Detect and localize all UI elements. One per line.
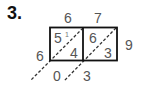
cell-1-ones: 4 [70,46,78,60]
bottom-digit-1: 0 [53,69,61,83]
left-digit: 6 [36,49,44,63]
cell-2-ones: 3 [104,46,112,60]
right-digit: 9 [125,38,133,52]
bottom-digit-2: 3 [83,69,91,83]
cell-1-carry: 1 [65,31,69,38]
cell-1-tens: 5 [54,31,62,45]
cell-2-tens: 6 [89,31,97,45]
